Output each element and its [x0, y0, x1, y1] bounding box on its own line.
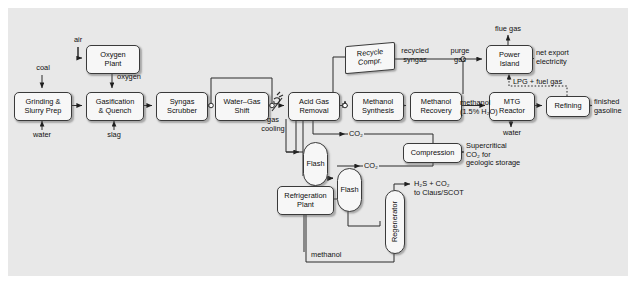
label-oxygen: oxygen	[112, 73, 146, 82]
gas-cooling-icon	[272, 92, 283, 111]
node-label: Power Island	[499, 51, 520, 69]
node-gasification-quench[interactable]: Gasification & Quench	[86, 92, 144, 121]
node-methanol-recovery[interactable]: Methanol Recovery	[410, 92, 462, 121]
node-acid-gas-removal[interactable]: Acid Gas Removal	[288, 92, 340, 121]
node-label: Methanol Recovery	[420, 98, 451, 116]
node-label: Grinding & Slurry Prep	[25, 98, 62, 116]
node-recycle-compressor[interactable]: Recycle Compr.	[345, 42, 395, 74]
node-flash-1[interactable]: Flash	[303, 142, 328, 186]
label-h2s-co2-claus: H₂S + CO₂ to Claus/SCOT	[414, 180, 464, 197]
node-methanol-synthesis[interactable]: Methanol Synthesis	[352, 92, 404, 121]
label-water-slurry: water	[26, 131, 58, 140]
node-label: Flash	[340, 186, 358, 195]
label-purge-gas: purge gas	[444, 47, 476, 64]
node-regenerator[interactable]: Regenerator	[385, 190, 405, 254]
node-syngas-scrubber[interactable]: Syngas Scrubber	[156, 92, 208, 121]
node-label: Gasification & Quench	[96, 98, 135, 116]
label-lpg-fuel-gas: LPG + fuel gas	[513, 78, 562, 87]
label-supercritical-co2: Supercritical CO₂ for geologic storage	[466, 142, 520, 168]
node-label: Methanol Synthesis	[362, 98, 394, 116]
label-flue-gas: flue gas	[487, 25, 529, 34]
node-flash-2[interactable]: Flash	[337, 168, 362, 212]
node-compression[interactable]: Compression	[403, 143, 462, 163]
label-co2-mid: CO₂	[363, 162, 379, 171]
node-refrigeration-plant[interactable]: Refrigeration Plant	[277, 186, 334, 215]
node-oxygen-plant[interactable]: Oxygen Plant	[86, 45, 140, 74]
label-methanol-return: methanol	[310, 251, 342, 260]
label-air: air	[68, 36, 88, 45]
node-label: Syngas Scrubber	[167, 98, 197, 116]
label-slag: slag	[101, 131, 127, 140]
label-gas-cooling: gas cooling	[256, 116, 290, 133]
label-finished-gasoline: finished gasoline	[594, 98, 622, 115]
label-water-mtg: water	[496, 129, 528, 138]
node-grinding-slurry-prep[interactable]: Grinding & Slurry Prep	[14, 92, 72, 121]
node-refining[interactable]: Refining	[546, 96, 590, 117]
node-label: Flash	[306, 160, 324, 169]
node-label: Compression	[411, 149, 455, 158]
node-label: Acid Gas Removal	[299, 98, 329, 116]
label-co2-top: CO₂	[348, 130, 364, 139]
label-methanol-stream: methanol (1.5% H₂O)	[460, 99, 498, 116]
node-label: Regenerator	[391, 201, 400, 242]
node-label: Refining	[554, 102, 581, 111]
node-label: Refrigeration Plant	[284, 192, 326, 210]
label-recycled-syngas: recycled syngas	[396, 47, 434, 64]
node-label: Recycle Compr.	[357, 48, 383, 68]
label-coal: coal	[30, 64, 56, 73]
node-label: Water–Gas Shift	[223, 98, 260, 116]
node-label: Oxygen Plant	[100, 51, 125, 69]
process-flow-diagram: Oxygen Plant Grinding & Slurry Prep Gasi…	[0, 0, 636, 293]
node-label: MTG Reactor	[499, 98, 525, 116]
label-net-export-electricity: net export electricity	[536, 49, 569, 66]
node-power-island[interactable]: Power Island	[486, 45, 533, 74]
